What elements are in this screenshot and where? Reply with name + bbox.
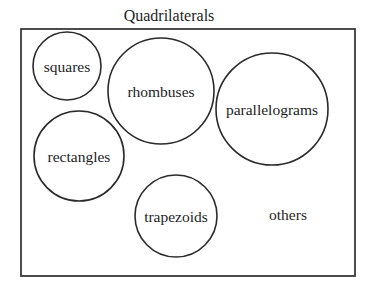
set-trapezoids: trapezoids	[135, 175, 217, 257]
quadrilaterals-diagram: Quadrilaterals squares rhombuses paralle…	[0, 0, 373, 291]
others-label: others	[269, 206, 307, 223]
set-rhombuses: rhombuses	[108, 38, 214, 144]
set-parallelograms: parallelograms	[216, 53, 328, 165]
rhombuses-label: rhombuses	[127, 83, 194, 100]
rectangles-label: rectangles	[48, 148, 111, 165]
squares-label: squares	[44, 58, 91, 75]
set-squares: squares	[33, 32, 101, 100]
diagram-title: Quadrilaterals	[124, 7, 215, 24]
trapezoids-label: trapezoids	[144, 208, 208, 225]
parallelograms-label: parallelograms	[226, 101, 318, 118]
set-rectangles: rectangles	[34, 111, 124, 201]
